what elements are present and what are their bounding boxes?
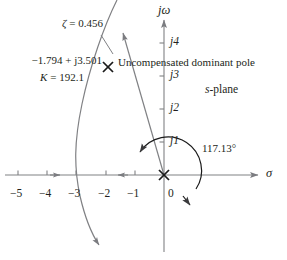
zeta-symbol: ζ — [62, 17, 66, 29]
uncompensated-dominant-pole-note: Uncompensated dominant pole — [118, 57, 255, 68]
y-tick-label-j3: j3 — [170, 69, 179, 81]
s-plane-label: s-plane — [205, 84, 238, 96]
gain-annotation: K = 192.1 — [22, 72, 102, 83]
zeta-line — [123, 33, 164, 175]
zeta-leader-line — [101, 35, 113, 54]
gain-value: = 192.1 — [50, 71, 84, 83]
real-axis-label: σ — [266, 167, 272, 180]
y-tick-label-j1: j1 — [170, 135, 179, 147]
zeta-value: = 0.456 — [69, 17, 103, 29]
x-tick-label-minus2: −2 — [98, 188, 110, 200]
zeta-annotation: ζ = 0.456 — [62, 18, 103, 29]
pole-marker-dominant — [103, 62, 113, 72]
real-axis — [5, 171, 258, 176]
s-plane-suffix: -plane — [209, 83, 238, 95]
angle-annotation: 117.13° — [202, 143, 236, 154]
x-tick-label-minus5: −5 — [10, 188, 22, 200]
x-tick-label-zero: 0 — [168, 188, 174, 200]
x-tick-label-minus4: −4 — [39, 188, 51, 200]
root-locus-diagram: jω σ −5 −4 −3 −2 −1 0 j4 j3 j2 j1 ζ = 0.… — [0, 0, 287, 260]
y-tick-label-j4: j4 — [170, 36, 179, 48]
plot-canvas — [0, 0, 287, 260]
dominant-pole-coordinate: −1.794 + j3.501 — [22, 55, 102, 66]
x-tick-label-minus3: −3 — [68, 188, 80, 200]
gain-symbol: K — [40, 71, 47, 83]
imag-axis-label-omega: ω — [161, 3, 170, 17]
x-tick-label-minus1: −1 — [127, 188, 139, 200]
root-locus-branch — [76, 0, 117, 245]
imaginary-axis — [160, 20, 165, 252]
imag-axis-label: jω — [158, 4, 170, 17]
y-tick-label-j2: j2 — [170, 102, 179, 114]
